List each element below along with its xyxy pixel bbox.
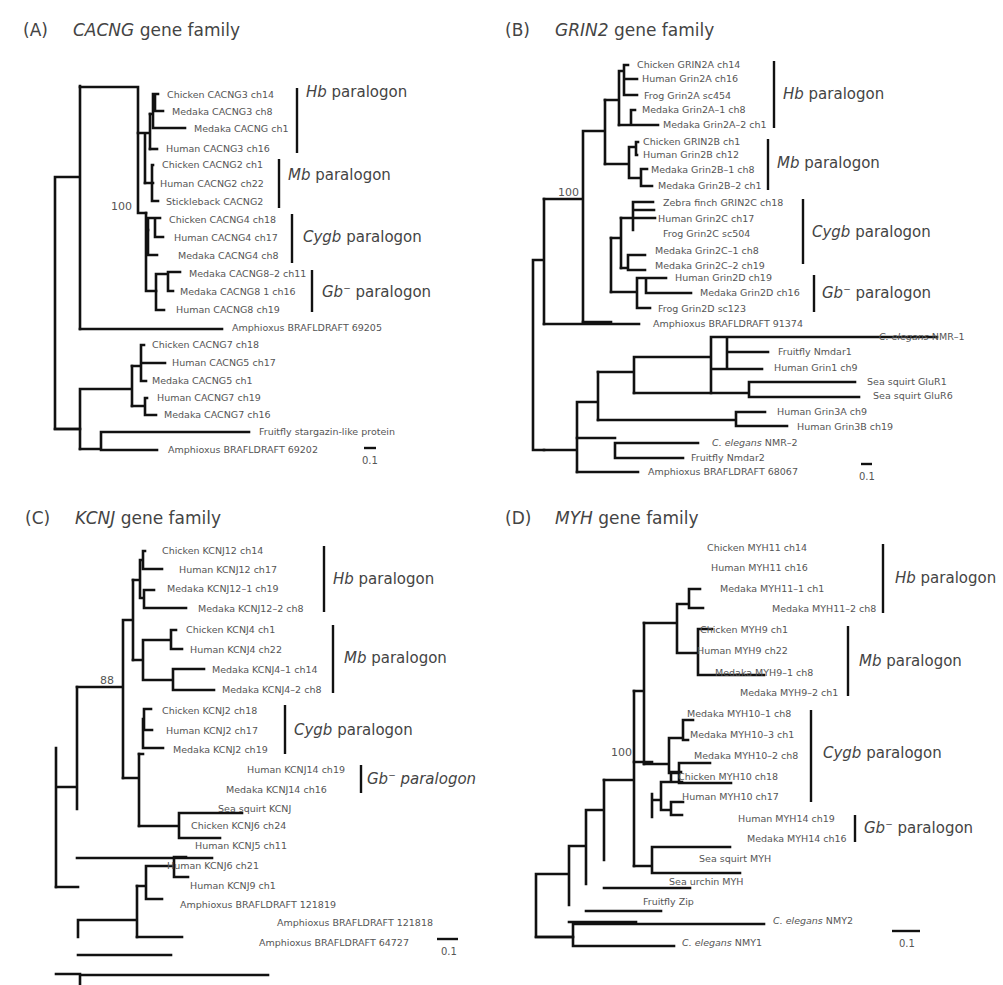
phylogenetic-tree: Chicken KCNJ12 ch14 Human KCNJ12 ch17 Me… <box>0 490 500 985</box>
leaf-label: Human Grin2A ch16 <box>642 73 738 84</box>
leaf-label: Frog Grin2D sc123 <box>658 303 746 314</box>
leaf-label: Medaka CACNG8 1 ch16 <box>180 286 296 297</box>
phylogenetic-tree: Chicken GRIN2A ch14 Human Grin2A ch16 Fr… <box>500 0 1003 485</box>
leaf-label: Chicken GRIN2B ch1 <box>643 136 740 147</box>
group-label-mb: Mb paralogon <box>344 649 447 667</box>
leaf-label: Frog Grin2A sc454 <box>644 90 731 101</box>
leaf-label: Chicken CACNG4 ch18 <box>169 214 276 225</box>
tree-branches <box>611 218 621 268</box>
leaf-label: Medaka KCNJ4–2 ch8 <box>222 684 321 695</box>
tree-branches <box>80 87 146 213</box>
group-label-hb: Hb paralogon <box>783 85 884 103</box>
leaf-label: Sea squirt MYH <box>699 853 771 864</box>
scale-label: 0.1 <box>859 471 875 482</box>
leaf-label-c-elegans-nmr2: C. elegans NMR–2 <box>712 437 798 448</box>
tree-branches <box>56 974 268 985</box>
leaf-label: Chicken KCNJ12 ch14 <box>162 545 263 556</box>
tree-branches <box>621 202 655 230</box>
tree-branches <box>145 165 158 201</box>
leaf-label: Medaka KCNJ2 ch19 <box>173 744 268 755</box>
group-label-gb: Gb− paralogon <box>322 283 431 301</box>
leaf-label: Medaka KCNJ14 ch16 <box>226 784 327 795</box>
leaf-label: Chicken KCNJ4 ch1 <box>186 624 275 635</box>
leaf-label-c-elegans-nmy2: C. elegans NMY2 <box>773 915 853 926</box>
panel-d-myh-tree: (D)MYH gene family Chicken MYH11 ch14 Hu… <box>500 490 1003 985</box>
leaf-label: Medaka MYH14 ch16 <box>747 833 847 844</box>
phylogenetic-tree: Chicken CACNG3 ch14 Medaka CACNG3 ch8 Me… <box>0 0 500 485</box>
leaf-label: Medaka CACNG3 ch8 <box>172 106 273 117</box>
group-label-cygb: Cygb paralogon <box>812 223 931 241</box>
tree-branches <box>123 754 139 826</box>
group-label-cygb: Cygb paralogon <box>303 228 422 246</box>
leaf-label: Fruitfly Nmdar2 <box>691 452 765 463</box>
leaf-label: Medaka MYH11–2 ch8 <box>772 603 876 614</box>
tree-branches <box>55 366 132 449</box>
leaf-label-c-elegans-nmy1: C. elegans NMY1 <box>682 937 762 948</box>
panel-b-grin2-tree: (B)GRIN2 gene family Chicken GRIN2A ch14… <box>500 0 1003 485</box>
bootstrap-value: 100 <box>111 200 132 213</box>
leaf-label: Human Grin2D ch19 <box>675 272 772 283</box>
phylogenetic-tree: Chicken MYH11 ch14 Human MYH11 ch16 Meda… <box>500 490 1003 985</box>
leaf-label: Human KCNJ14 ch19 <box>247 764 345 775</box>
leaf-label: Amphioxus BRAFLDRAFT 69202 <box>168 444 318 455</box>
leaf-label: Human Grin2B ch12 <box>643 149 739 160</box>
leaf-label: Chicken MYH9 ch1 <box>700 624 788 635</box>
group-label-mb: Mb paralogon <box>859 652 962 670</box>
group-label-hb: Hb paralogon <box>333 570 434 588</box>
leaf-label: Human CACNG3 ch16 <box>166 143 270 154</box>
scale-label: 0.1 <box>899 938 915 949</box>
group-label-hb: Hb paralogon <box>895 569 996 587</box>
leaf-label: Fruitfly Zip <box>643 896 694 907</box>
leaf-label: Fruitfly Nmdar1 <box>778 346 852 357</box>
leaf-label: Chicken CACNG7 ch18 <box>152 339 259 350</box>
group-label-gb: Gb− paralogon <box>822 284 931 302</box>
tree-branches <box>56 886 137 937</box>
leaf-label: Medaka KCNJ12–2 ch8 <box>198 603 304 614</box>
group-label-mb: Mb paralogon <box>288 166 391 184</box>
tree-branches <box>133 630 214 690</box>
leaf-label: Human KCNJ5 ch11 <box>195 840 287 851</box>
tree-branches <box>148 218 163 255</box>
leaf-label: Amphioxus BRAFLDRAFT 68067 <box>648 466 798 477</box>
group-label-gb: Gb− paralogon <box>367 770 476 788</box>
leaf-label: Medaka CACNG5 ch1 <box>152 375 253 386</box>
tree-branches <box>132 398 156 415</box>
leaf-label: Medaka MYH10–3 ch1 <box>690 729 794 740</box>
leaf-label: Medaka Grin2A–2 ch1 <box>663 119 767 130</box>
leaf-label: Human KCNJ4 ch22 <box>190 644 282 655</box>
panel-c-kcnj-tree: (C)KCNJ gene family Chicken KCNJ12 ch14 … <box>0 490 500 985</box>
scale-label: 0.1 <box>441 946 457 957</box>
leaf-label: Medaka Grin2A–1 ch8 <box>642 104 746 115</box>
leaf-label: Human CACNG8 ch19 <box>176 304 280 315</box>
leaf-label: Amphioxus BRAFLDRAFT 69205 <box>232 322 382 333</box>
leaf-label: Chicken MYH11 ch14 <box>707 542 807 553</box>
leaf-label: Human Grin2C ch17 <box>658 213 754 224</box>
tree-branches <box>583 238 611 322</box>
bootstrap-value: 100 <box>611 746 632 759</box>
leaf-label: Medaka MYH9–1 ch8 <box>715 667 813 678</box>
tree-branches <box>634 382 859 397</box>
leaf-label: Frog Grin2C sc504 <box>663 228 750 239</box>
bootstrap-value: 88 <box>100 674 114 687</box>
leaf-label-c-elegans-nmr1: C. elegans NMR–1 <box>879 331 965 342</box>
leaf-label: Fruitfly stargazin-like protein <box>259 426 395 437</box>
tree-branches <box>536 780 604 937</box>
leaf-label: Human CACNG5 ch17 <box>172 357 276 368</box>
leaf-label: Medaka Grin2B–1 ch8 <box>651 164 755 175</box>
leaf-label: Medaka MYH9–2 ch1 <box>740 687 838 698</box>
tree-branches <box>604 691 634 866</box>
leaf-label: Medaka Grin2C–2 ch19 <box>655 260 765 271</box>
leaf-label: Human MYH9 ch22 <box>697 645 788 656</box>
leaf-label: Sea urchin MYH <box>669 876 744 887</box>
tree-branches <box>544 372 598 472</box>
leaf-label: Chicken CACNG3 ch14 <box>167 89 274 100</box>
tree-branches <box>56 687 77 887</box>
leaf-label: Human KCNJ9 ch1 <box>190 880 276 891</box>
leaf-label: Human CACNG2 ch22 <box>160 178 264 189</box>
leaf-label: Medaka KCNJ4–1 ch14 <box>212 664 318 675</box>
leaf-label: Human CACNG4 ch17 <box>174 232 278 243</box>
leaf-label: Chicken GRIN2A ch14 <box>637 59 740 70</box>
tree-branches <box>133 551 186 608</box>
tree-branches <box>577 438 698 458</box>
leaf-label: Chicken KCNJ6 ch24 <box>191 820 286 831</box>
